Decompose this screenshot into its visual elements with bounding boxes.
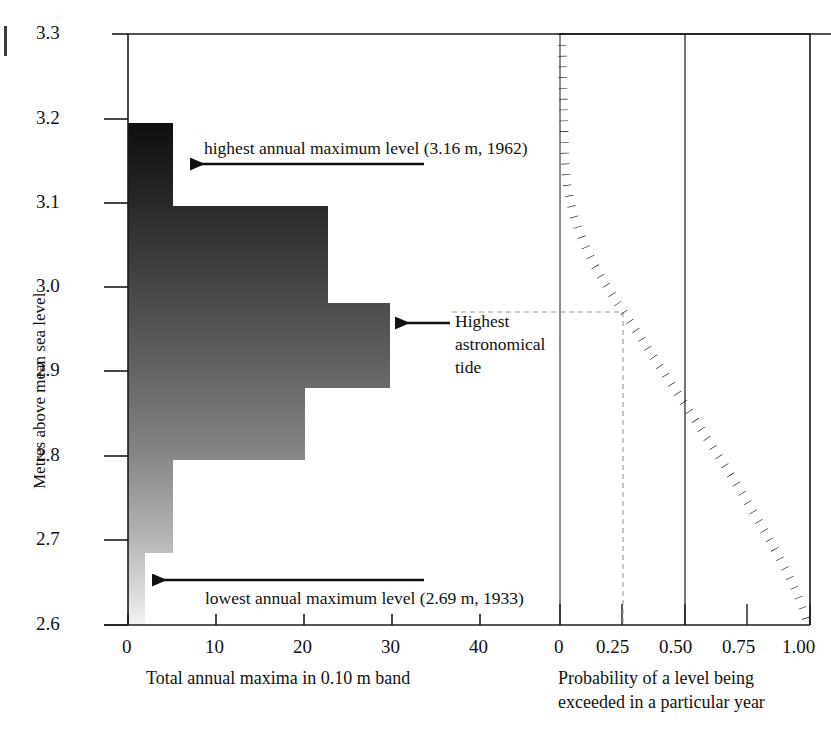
x-tick-40: 40	[469, 636, 488, 658]
figure-canvas: 2.6 2.7 2.8 2.9 3.0 3.1 3.2 3.3 Metres a…	[0, 0, 831, 735]
right-panel-frame	[560, 34, 810, 625]
chart-graphics	[0, 0, 831, 735]
x-axis-ticks-right	[560, 604, 810, 625]
prob-tick-075: 0.75	[722, 636, 755, 658]
y-tick-2-6: 2.6	[36, 613, 60, 635]
prob-tick-0: 0	[554, 636, 564, 658]
y-tick-2-7: 2.7	[36, 528, 60, 550]
left-x-axis-title: Total annual maxima in 0.10 m band	[146, 668, 410, 689]
annotation-highest-astronomical-tide-line1: Highest	[455, 311, 509, 332]
annotation-highest-astronomical-tide-line2: astronomical	[455, 334, 545, 355]
prob-tick-050: 0.50	[659, 636, 692, 658]
page-margin-mark	[4, 26, 7, 56]
y-tick-3-3: 3.3	[36, 22, 60, 44]
x-axis-ticks-left	[128, 614, 480, 625]
x-tick-10: 10	[205, 636, 224, 658]
right-x-axis-title-line1: Probability of a level being	[558, 668, 754, 689]
annotation-highest-annual-maximum: highest annual maximum level (3.16 m, 19…	[204, 138, 528, 159]
prob-tick-025: 0.25	[596, 636, 629, 658]
x-tick-0: 0	[122, 636, 132, 658]
y-axis-ticks	[104, 34, 128, 625]
y-axis-title: Metres above mean sea level	[30, 293, 50, 489]
histogram-bars	[128, 34, 390, 625]
y-tick-3-2: 3.2	[36, 107, 60, 129]
annotation-highest-astronomical-tide-line3: tide	[455, 357, 481, 378]
right-x-axis-title-line2: exceeded in a particular year	[558, 692, 765, 713]
annotation-lowest-annual-maximum: lowest annual maximum level (2.69 m, 193…	[205, 588, 524, 609]
prob-tick-100: 1.00	[782, 636, 815, 658]
y-tick-3-1: 3.1	[36, 191, 60, 213]
x-tick-30: 30	[381, 636, 400, 658]
x-tick-20: 20	[293, 636, 312, 658]
